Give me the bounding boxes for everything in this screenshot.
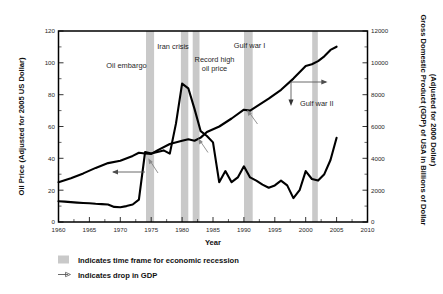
- y-right-tick-label: 6000: [371, 123, 385, 130]
- y-right-tick-label: 4000: [371, 155, 385, 162]
- x-tick-label: 1975: [144, 226, 158, 233]
- y-left-tick-label: 60: [48, 123, 55, 130]
- iran-crisis-label: Iran crisis: [157, 42, 189, 51]
- recession-band-1980: [181, 31, 188, 222]
- oil-embargo-label: Oil embargo: [106, 61, 146, 70]
- x-tick-label: 1990: [237, 226, 251, 233]
- recession-band-1974: [146, 31, 154, 222]
- x-tick-label: 1995: [268, 226, 282, 233]
- figure-background: [0, 0, 443, 294]
- x-tick-label: 1985: [206, 226, 220, 233]
- legend-gdp-drop-label: Indicates drop in GDP: [78, 271, 157, 280]
- recession-band-2001: [312, 31, 318, 222]
- y-left-tick-label: 100: [45, 59, 56, 66]
- x-tick-label: 1965: [83, 226, 97, 233]
- record-high-oil-price-label: Record high: [195, 55, 235, 64]
- x-tick-label: 2000: [299, 226, 313, 233]
- x-tick-label: 2005: [330, 226, 344, 233]
- y-right-tick-label: 0: [371, 218, 375, 225]
- y-right-tick-label: 8000: [371, 91, 385, 98]
- y-right-tick-label: 2000: [371, 187, 385, 194]
- y-right-axis-title-line2: (Adjusted for 2000 Dollar): [429, 74, 438, 167]
- y-left-tick-label: 40: [48, 155, 55, 162]
- x-tick-label: 1970: [113, 226, 127, 233]
- record-high-oil-price-label-line2: oil price: [202, 64, 227, 73]
- x-tick-label: 1980: [175, 226, 189, 233]
- x-tick-label: 1960: [52, 226, 66, 233]
- gulf-war-i-label: Gulf war I: [234, 41, 266, 50]
- y-right-tick-label: 12000: [371, 27, 389, 34]
- x-tick-label: 2010: [361, 226, 375, 233]
- y-right-tick-label: 10000: [371, 59, 389, 66]
- y-left-tick-label: 20: [48, 187, 55, 194]
- y-right-axis-title-line1: Gross Domestic Product (GDP) of USA in B…: [419, 14, 428, 225]
- x-axis-title: Year: [205, 238, 221, 247]
- legend-recession-swatch-icon: [58, 256, 69, 264]
- legend-recession-label: Indicates time frame for economic recess…: [78, 256, 239, 265]
- y-left-tick-label: 0: [52, 218, 56, 225]
- gulf-war-ii-label: Gulf war II: [300, 99, 334, 108]
- y-left-axis-title: Oil Price (Adjusted for 2005 US Dollar): [17, 57, 26, 195]
- chart-svg: 0 20 40 60 80 100 120 0 2000 4000 6000 8…: [0, 0, 443, 294]
- chart-figure: 0 20 40 60 80 100 120 0 2000 4000 6000 8…: [0, 0, 443, 294]
- recession-band-1990: [244, 31, 253, 222]
- y-left-tick-label: 80: [48, 91, 55, 98]
- y-left-tick-label: 120: [45, 27, 56, 34]
